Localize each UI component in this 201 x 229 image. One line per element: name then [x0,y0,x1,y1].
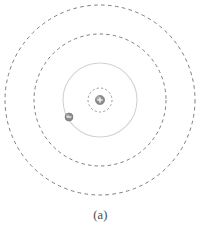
electron [65,113,73,121]
bohr-atom-diagram [0,0,201,201]
figure-caption: (a) [0,201,201,229]
nucleus [95,95,104,104]
atom-figure: (a) [0,0,201,229]
